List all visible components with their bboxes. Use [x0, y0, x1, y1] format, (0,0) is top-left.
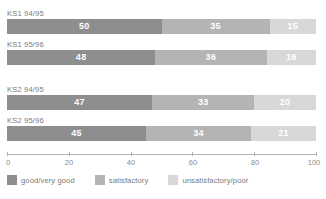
x-axis-tick	[254, 152, 255, 156]
bar-segment-value: 36	[206, 53, 217, 62]
bar-row: KS2 94/95 47 33 20	[0, 85, 326, 113]
legend-swatch-icon	[168, 175, 178, 185]
bar-segment-satisfactory[interactable]: 33	[152, 95, 254, 110]
stacked-bar-chart: KS1 94/95 50 35 15 KS1 95/96	[0, 0, 326, 199]
bar-segment-value: 16	[286, 53, 297, 62]
bar-segment-value: 33	[198, 98, 209, 107]
x-axis-tick-label: 60	[189, 158, 197, 167]
bar-row: KS1 95/96 48 36 16	[0, 40, 326, 68]
bar-group-ks2: KS2 94/95 47 33 20 KS2 95/96	[0, 85, 326, 147]
x-axis-tick	[316, 152, 317, 156]
bar-segment-value: 21	[278, 129, 289, 138]
bar-segment-good-very-good[interactable]: 47	[7, 95, 152, 110]
x-axis-tick-label: 40	[127, 158, 135, 167]
bar-row: KS2 95/96 45 34 21	[0, 116, 326, 144]
x-axis-tick	[192, 152, 193, 156]
plot-area: KS1 94/95 50 35 15 KS1 95/96	[0, 9, 326, 147]
legend-item-unsatisfactory-poor[interactable]: unsatisfactory/poor	[168, 175, 248, 185]
bar-segment-satisfactory[interactable]: 35	[162, 19, 270, 34]
x-axis-tick	[69, 152, 70, 156]
bar-segment-unsatisfactory-poor[interactable]: 20	[254, 95, 316, 110]
legend-label: good/very good	[21, 176, 75, 185]
x-axis-tick-label: 100	[308, 158, 321, 167]
x-axis-tick-label: 0	[6, 158, 10, 167]
bar-segment-good-very-good[interactable]: 48	[7, 50, 155, 65]
bar-row-label: KS2 94/95	[7, 85, 44, 94]
bar-group-ks1: KS1 94/95 50 35 15 KS1 95/96	[0, 9, 326, 71]
bar-segment-unsatisfactory-poor[interactable]: 15	[270, 19, 316, 34]
bar-row-label: KS1 94/95	[7, 9, 44, 18]
bar-segment-unsatisfactory-poor[interactable]: 16	[267, 50, 316, 65]
stacked-bar: 48 36 16	[7, 50, 316, 65]
legend-label: satisfactory	[109, 176, 149, 185]
bar-segment-good-very-good[interactable]: 45	[7, 126, 146, 141]
legend: good/very good satisfactory unsatisfacto…	[7, 174, 248, 186]
x-axis-tick-label: 20	[65, 158, 73, 167]
stacked-bar: 45 34 21	[7, 126, 316, 141]
legend-swatch-icon	[7, 175, 17, 185]
bar-row: KS1 94/95 50 35 15	[0, 9, 326, 37]
legend-swatch-icon	[95, 175, 105, 185]
bar-segment-value: 15	[288, 22, 299, 31]
bar-segment-value: 48	[76, 53, 87, 62]
bar-segment-unsatisfactory-poor[interactable]: 21	[251, 126, 316, 141]
stacked-bar: 47 33 20	[7, 95, 316, 110]
x-axis-tick	[7, 152, 8, 156]
x-axis-tick	[131, 152, 132, 156]
bar-segment-value: 45	[71, 129, 82, 138]
clipped-text-above	[7, 0, 307, 4]
bar-segment-good-very-good[interactable]: 50	[7, 19, 162, 34]
bar-row-label: KS2 95/96	[7, 116, 44, 125]
stacked-bar: 50 35 15	[7, 19, 316, 34]
bar-segment-value: 47	[74, 98, 85, 107]
x-axis-line	[7, 154, 316, 155]
bar-segment-value: 50	[79, 22, 90, 31]
legend-item-satisfactory[interactable]: satisfactory	[95, 175, 149, 185]
bar-segment-value: 34	[193, 129, 204, 138]
bar-row-label: KS1 95/96	[7, 40, 44, 49]
legend-label: unsatisfactory/poor	[182, 176, 248, 185]
legend-item-good-very-good[interactable]: good/very good	[7, 175, 75, 185]
bar-segment-value: 20	[280, 98, 291, 107]
x-axis: 0 20 40 60 80 100	[0, 154, 326, 170]
bar-segment-satisfactory[interactable]: 34	[146, 126, 251, 141]
x-axis-tick-label: 80	[251, 158, 259, 167]
bar-segment-satisfactory[interactable]: 36	[155, 50, 266, 65]
bar-segment-value: 35	[210, 22, 221, 31]
